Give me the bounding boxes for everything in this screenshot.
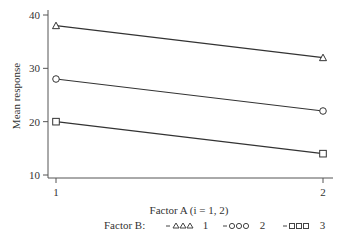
x-axis-label: Factor A (i = 1, 2) <box>150 204 229 217</box>
x-tick-label: 1 <box>53 186 59 198</box>
interaction-plot: 1020304012 Mean response Factor A (i = 1… <box>0 0 346 245</box>
legend-title: Factor B: <box>104 219 145 231</box>
y-tick-label: 10 <box>29 169 41 181</box>
legend-label-3: 3 <box>320 219 326 231</box>
series-lines <box>53 22 327 157</box>
y-axis-label: Mean response <box>10 63 22 129</box>
legend-label-2: 2 <box>260 219 266 231</box>
y-tick-label: 40 <box>29 9 41 21</box>
square-marker-icon <box>283 220 317 230</box>
legend-label-1: 1 <box>203 219 209 231</box>
y-tick-label: 30 <box>29 62 41 74</box>
circle-marker-icon <box>320 108 327 115</box>
circle-marker-icon <box>223 220 257 230</box>
circle-marker-icon <box>53 76 60 83</box>
x-tick-label: 2 <box>320 186 326 198</box>
square-marker-icon <box>53 118 60 125</box>
square-marker-icon <box>320 150 327 157</box>
legend: Factor B: 1 2 3 <box>0 219 346 237</box>
y-tick-label: 20 <box>29 116 41 128</box>
series-line-1 <box>56 26 323 58</box>
axes: 1020304012 <box>29 9 333 198</box>
triangle-marker-icon <box>166 220 200 230</box>
series-line-2 <box>56 79 323 111</box>
legend-item-1: 1 <box>166 219 208 231</box>
legend-item-3: 3 <box>283 219 325 231</box>
series-line-3 <box>56 122 323 154</box>
legend-item-2: 2 <box>223 219 265 231</box>
